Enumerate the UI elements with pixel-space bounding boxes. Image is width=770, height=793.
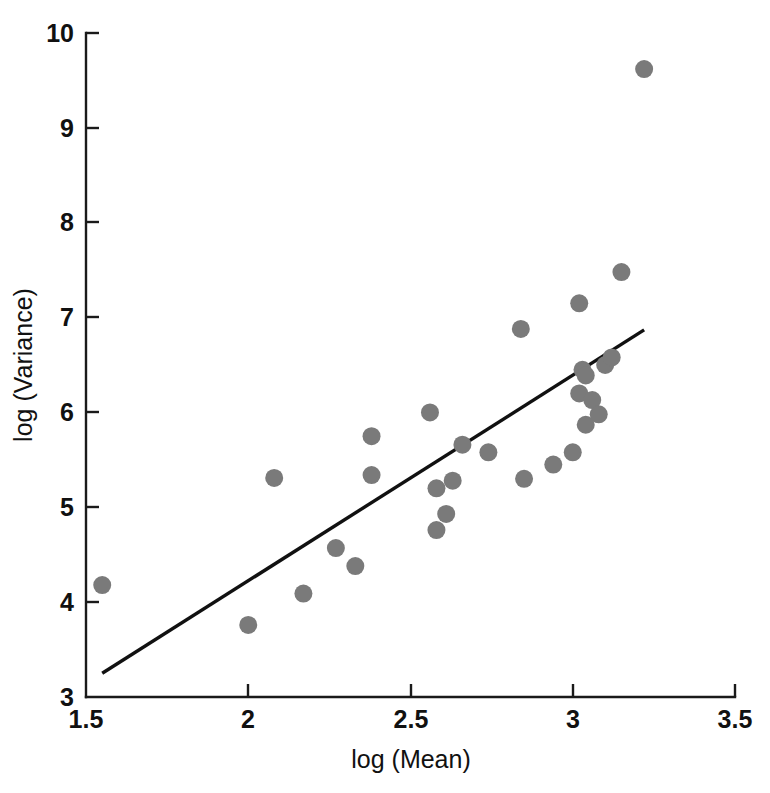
x-tick-label-2: 2 (241, 705, 255, 733)
x-axis-ticks (248, 684, 573, 697)
y-tick-labels: 10 9 8 7 6 5 4 3 (46, 19, 74, 711)
data-point (453, 436, 471, 454)
x-tick-label-3-5: 3.5 (718, 705, 753, 733)
data-point (444, 472, 462, 490)
x-axis-title: log (Mean) (351, 745, 471, 773)
y-axis-title: log (Variance) (9, 288, 37, 442)
data-point (346, 557, 364, 575)
data-point (635, 60, 653, 78)
data-point (544, 456, 562, 474)
data-point (427, 479, 445, 497)
y-tick-label-10: 10 (46, 19, 74, 47)
data-point (612, 263, 630, 281)
data-point (590, 405, 608, 423)
y-axis-ticks (86, 128, 99, 602)
data-point (421, 403, 439, 421)
data-point (327, 539, 345, 557)
data-point (577, 366, 595, 384)
data-points-group (93, 60, 653, 634)
scatter-plot-figure: 10 9 8 7 6 5 4 3 1.5 2 2.5 3 3.5 log (Me… (0, 0, 770, 793)
x-tick-label-1-5: 1.5 (69, 705, 104, 733)
y-tick-label-5: 5 (60, 493, 74, 521)
x-tick-label-3: 3 (566, 705, 580, 733)
data-point (363, 466, 381, 484)
data-point (437, 505, 455, 523)
data-point (363, 427, 381, 445)
data-point (93, 576, 111, 594)
data-point (294, 585, 312, 603)
data-point (512, 320, 530, 338)
data-point (603, 348, 621, 366)
data-point (479, 443, 497, 461)
data-point (570, 294, 588, 312)
y-tick-label-9: 9 (60, 114, 74, 142)
y-tick-label-6: 6 (60, 398, 74, 426)
data-point (515, 470, 533, 488)
plot-canvas: 10 9 8 7 6 5 4 3 1.5 2 2.5 3 3.5 log (Me… (0, 0, 770, 793)
x-tick-labels: 1.5 2 2.5 3 3.5 (69, 705, 753, 733)
y-tick-label-7: 7 (60, 303, 74, 331)
y-tick-label-4: 4 (60, 588, 74, 616)
data-point (427, 521, 445, 539)
x-tick-label-2-5: 2.5 (394, 705, 429, 733)
data-point (564, 443, 582, 461)
regression-fit-line (102, 330, 644, 673)
axes-group (86, 33, 735, 697)
data-point (265, 469, 283, 487)
y-tick-label-8: 8 (60, 208, 74, 236)
data-point (239, 616, 257, 634)
